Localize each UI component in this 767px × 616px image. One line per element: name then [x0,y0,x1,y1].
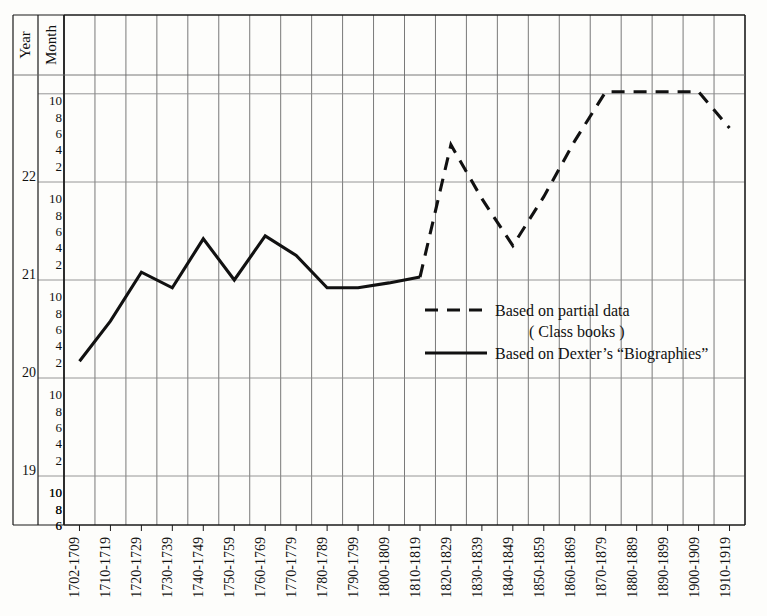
x-axis-tick-label: 1702-1709 [67,537,82,598]
y-axis-month-tick: 4 [56,142,63,157]
y-axis-month-tick: 10 [49,485,62,500]
y-axis-month-tick: 10 [49,289,62,304]
x-axis-tick-label: 1790-1799 [346,537,361,598]
y-axis-year-tick: 20 [22,365,36,380]
y-axis-month-tick: 6 [56,420,63,435]
y-axis-year-tick: 19 [22,463,36,478]
y-axis-month-tick: 8 [56,306,63,321]
y-axis-month-tick: 10 [49,93,62,108]
year-axis-header: Year [17,31,33,59]
y-axis-labels: 2221201910864210864210864210864210861086 [22,93,63,533]
x-axis-labels: 1702-17091710-17191720-17291730-17391740… [67,525,732,598]
y-axis-month-tick: 8 [56,404,63,419]
y-axis-month-tick: 8 [56,208,63,223]
x-axis-tick-label: 1860-1869 [563,537,578,598]
y-axis-year-tick: 22 [22,169,36,184]
chart-legend: Based on partial data( Class books )Base… [425,302,708,363]
y-axis-month-tick: 2 [56,257,63,272]
y-axis-month-tick: 8 [56,110,63,125]
x-axis-tick-label: 1710-1719 [98,537,113,598]
legend-label-dexter-biographies: Based on Dexter’s “Biographies” [495,345,708,363]
y-axis-month-tick: 10 [49,387,62,402]
x-axis-tick-label: 1840-1849 [501,537,516,598]
x-axis-tick-label: 1870-1879 [594,537,609,598]
age-at-graduation-line-chart: 2221201910864210864210864210864210861086… [0,0,767,616]
x-axis-tick-label: 1800-1809 [377,537,392,598]
chart-container: 2221201910864210864210864210864210861086… [0,0,767,616]
x-axis-tick-label: 1760-1769 [253,537,268,598]
y-axis-month-tick: 6 [56,126,63,141]
x-axis-tick-label: 1740-1749 [191,537,206,598]
x-axis-tick-label: 1720-1729 [129,537,144,598]
legend-label-partial-data: Based on partial data [495,302,630,320]
x-axis-tick-label: 1810-1819 [408,537,423,598]
y-axis-month-tick: 2 [56,159,63,174]
x-axis-tick-label: 1890-1899 [656,537,671,598]
y-axis-month-tick: 6 [56,224,63,239]
x-axis-tick-label: 1770-1779 [284,537,299,598]
x-axis-tick-label: 1880-1889 [625,537,640,598]
y-axis-month-tick: 2 [56,355,63,370]
y-axis-month-tick: 4 [56,436,63,451]
x-axis-tick-label: 1750-1759 [222,537,237,598]
y-axis-month-tick: 2 [56,453,63,468]
y-axis-month-tick: 6 [56,518,63,533]
x-axis-tick-label: 1900-1909 [687,537,702,598]
x-axis-tick-label: 1850-1859 [532,537,547,598]
month-axis-header: Month [43,25,59,66]
x-axis-tick-label: 1830-1839 [470,537,485,598]
y-axis-month-tick: 10 [49,191,62,206]
x-axis-tick-label: 1820-1829 [439,537,454,598]
x-axis-tick-label: 1910-1919 [718,537,733,598]
y-axis-month-tick: 4 [56,338,63,353]
y-axis-month-tick: 8 [56,502,63,517]
legend-label-class-books: ( Class books ) [529,323,625,341]
y-axis-month-tick: 6 [56,322,63,337]
x-axis-tick-label: 1780-1789 [315,537,330,598]
y-axis-month-tick: 4 [56,240,63,255]
y-axis-year-tick: 21 [22,267,36,282]
x-axis-tick-label: 1730-1739 [160,537,175,598]
